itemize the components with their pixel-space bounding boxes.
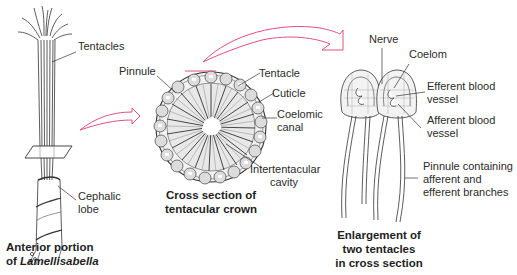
label-efferent-blood-vessel-line2: vessel — [427, 93, 458, 106]
label-tentacle: Tentacle — [259, 67, 300, 80]
label-nerve: Nerve — [369, 33, 398, 46]
caption-enlargement-line2: two tentacles — [326, 242, 432, 256]
lamellisabella-diagram: Tentacles Cephalic lobe Anterior portion… — [0, 0, 517, 275]
caption-anterior-portion: Anterior portion of Lamellisabella — [6, 240, 90, 268]
label-intertentacular-line1: Intertentacular — [250, 163, 320, 176]
caption-anterior-prefix: of — [6, 255, 20, 267]
label-pinnule-containing-line1: Pinnule containing — [423, 160, 513, 173]
caption-cross-section: Cross section of tentacular crown — [150, 188, 272, 216]
label-tentacles: Tentacles — [78, 40, 124, 53]
label-cuticle: Cuticle — [272, 87, 306, 100]
label-coelomic-canal-line2: canal — [277, 121, 303, 134]
caption-enlargement-line3: in cross section — [326, 256, 432, 270]
two-tentacles-enlargement — [341, 48, 425, 222]
anterior-body-illustration — [18, 6, 76, 265]
arrow-to-enlargement — [203, 26, 343, 62]
arrow-to-cross-section — [80, 108, 140, 130]
label-intertentacular-line2: cavity — [270, 176, 298, 189]
caption-cross-section-line2: tentacular crown — [150, 202, 272, 216]
label-coelomic-canal-line1: Coelomic — [277, 108, 323, 121]
label-afferent-blood-vessel-line1: Afferent blood — [427, 114, 495, 127]
label-coelom: Coelom — [409, 48, 447, 61]
caption-anterior-line2: of Lamellisabella — [6, 254, 90, 268]
label-afferent-blood-vessel-line2: vessel — [427, 127, 458, 140]
label-pinnule-containing-line2: afferent and — [423, 173, 482, 186]
label-pinnule: Pinnule — [119, 65, 156, 78]
label-cephalic-lobe-line2: lobe — [78, 203, 99, 216]
caption-anterior-line1: Anterior portion — [6, 240, 90, 254]
label-pinnule-containing-line3: efferent branches — [423, 186, 508, 199]
label-efferent-blood-vessel-line1: Efferent blood — [427, 80, 495, 93]
label-cephalic-lobe-line1: Cephalic — [78, 190, 121, 203]
caption-enlargement-line1: Enlargement of — [326, 228, 432, 242]
caption-cross-section-line1: Cross section of — [150, 188, 272, 202]
caption-enlargement: Enlargement of two tentacles in cross se… — [326, 228, 432, 270]
caption-genus-name: Lamellisabella — [20, 255, 99, 267]
